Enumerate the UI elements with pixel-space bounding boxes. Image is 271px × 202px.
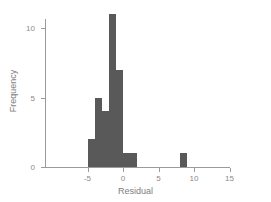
x-axis-tick (230, 168, 231, 172)
histogram-bar (88, 139, 95, 167)
histogram-bar (123, 153, 130, 167)
plot-area: -5051015 0510 (0, 0, 271, 202)
y-axis-tick-label: 10 (26, 24, 35, 33)
y-axis-tick (41, 98, 45, 99)
histogram-bar (95, 98, 102, 168)
y-axis-line (45, 19, 46, 168)
x-axis-line (45, 167, 230, 168)
x-axis-tick (123, 168, 124, 172)
x-axis-tick (159, 168, 160, 172)
y-axis-tick (41, 167, 45, 168)
y-axis-tick (41, 28, 45, 29)
x-axis-tick-label: 5 (156, 174, 160, 183)
y-axis-tick-label: 5 (31, 93, 35, 102)
histogram-figure: -5051015 0510 Residual Frequency (0, 0, 271, 202)
x-axis-tick (194, 168, 195, 172)
x-axis-title: Residual (0, 186, 271, 196)
histogram-bar (109, 14, 116, 167)
x-axis-tick-label: 10 (190, 174, 199, 183)
histogram-bar (180, 153, 187, 167)
x-axis-tick (88, 168, 89, 172)
histogram-bar (102, 111, 109, 167)
y-axis-tick-label: 0 (31, 163, 35, 172)
histogram-bar (116, 70, 123, 167)
histogram-bar (130, 153, 137, 167)
x-axis-tick-label: -5 (84, 174, 91, 183)
x-axis-tick-label: 15 (225, 174, 234, 183)
x-axis-tick-label: 0 (121, 174, 125, 183)
y-axis-title: Frequency (8, 56, 18, 126)
